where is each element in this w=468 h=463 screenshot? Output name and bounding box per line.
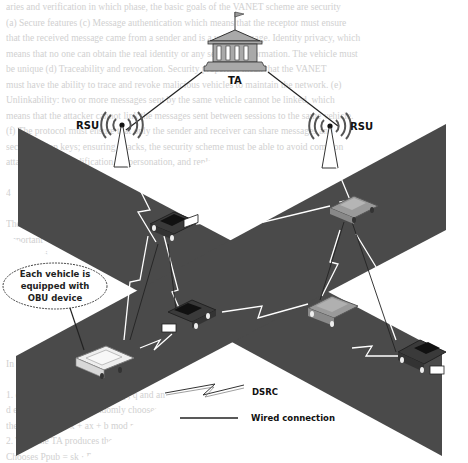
rsu-right: RSU [309, 113, 373, 168]
ta-label: TA [228, 75, 242, 86]
vanet-diagram: TA RSU RSU [0, 0, 468, 463]
rsu-left-label: RSU [76, 120, 99, 131]
government-building-icon [210, 30, 260, 41]
wire-ta-rsu-right [268, 72, 338, 126]
ta-building: TA [204, 12, 266, 86]
callout-line-2: equipped with [21, 281, 90, 291]
rsu-left: RSU [76, 112, 143, 167]
callout-line-1: Each vehicle is [20, 269, 91, 279]
dsrc-legend-label: DSRC [252, 387, 278, 397]
obu-callout: Each vehicle is equipped with OBU device [3, 263, 107, 309]
wired-legend-label: Wired connection [251, 413, 335, 423]
rsu-right-label: RSU [350, 121, 373, 132]
callout-line-3: OBU device [28, 293, 83, 303]
